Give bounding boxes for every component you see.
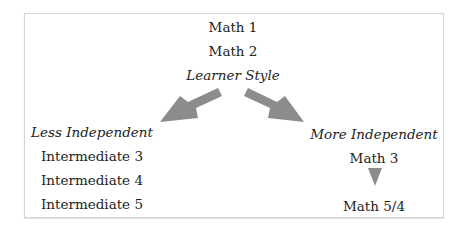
- arrow-left-icon: [160, 88, 222, 122]
- node-intermediate-5: Intermediate 5: [41, 196, 143, 212]
- node-math-3: Math 3: [350, 150, 399, 166]
- more-independent-heading: More Independent: [310, 126, 437, 142]
- arrow-down-icon: [368, 168, 382, 186]
- node-math-5-4: Math 5/4: [343, 198, 405, 214]
- arrow-right-icon: [244, 88, 304, 122]
- less-independent-heading: Less Independent: [31, 124, 153, 140]
- node-intermediate-3: Intermediate 3: [41, 148, 143, 164]
- node-intermediate-4: Intermediate 4: [41, 172, 143, 188]
